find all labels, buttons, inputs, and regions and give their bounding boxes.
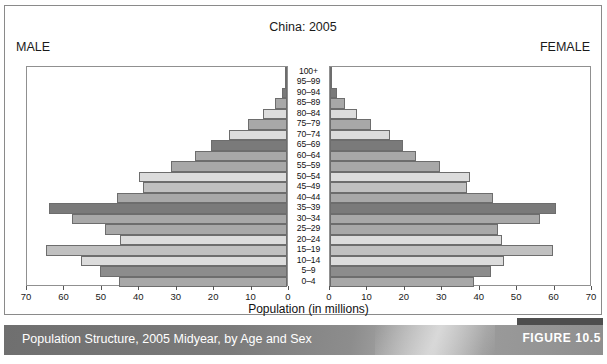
x-tick-female xyxy=(366,286,367,290)
pyramid-row xyxy=(27,235,287,245)
pyramid-row xyxy=(330,235,590,245)
pyramid-row xyxy=(330,266,590,276)
age-label-50–54: 50–54 xyxy=(288,171,329,181)
male-bar-rows xyxy=(27,67,287,285)
bar-female-80–84 xyxy=(330,109,357,119)
pyramid-row xyxy=(330,224,590,234)
bar-male-30–34 xyxy=(72,214,287,224)
bar-female-75–79 xyxy=(330,119,371,129)
x-tick-female xyxy=(479,286,480,290)
x-axis-title: Population (in millions) xyxy=(26,302,591,316)
x-tick-female xyxy=(591,286,592,290)
bar-female-85–89 xyxy=(330,98,345,108)
x-tick-label-female-30: 30 xyxy=(436,291,447,302)
x-tick-label-female-70: 70 xyxy=(586,291,597,302)
x-tick-male xyxy=(213,286,214,290)
bar-female-60–64 xyxy=(330,151,416,161)
pyramid-row xyxy=(330,256,590,266)
bar-male-65–69 xyxy=(211,140,287,150)
age-label-40–44: 40–44 xyxy=(288,192,329,202)
bar-female-45–49 xyxy=(330,182,467,192)
pyramid-row xyxy=(27,224,287,234)
bar-male-50–54 xyxy=(139,172,287,182)
bar-male-100+ xyxy=(285,67,287,77)
bar-male-5–9 xyxy=(100,266,287,276)
pyramid-row xyxy=(330,172,590,182)
pyramid-row xyxy=(27,245,287,255)
bar-male-55–59 xyxy=(171,161,287,171)
pyramid-row xyxy=(330,182,590,192)
pyramid-row xyxy=(27,203,287,213)
bar-male-85–89 xyxy=(275,98,287,108)
pyramid-row xyxy=(27,161,287,171)
chart-title: China: 2005 xyxy=(5,20,601,34)
age-label-60–64: 60–64 xyxy=(288,150,329,160)
bar-female-30–34 xyxy=(330,214,540,224)
x-tick-label-male-10: 10 xyxy=(245,291,256,302)
age-label-0–4: 0–4 xyxy=(288,276,329,286)
x-tick-female xyxy=(329,286,330,290)
pyramid-row xyxy=(330,193,590,203)
x-tick-label-male-60: 60 xyxy=(58,291,69,302)
x-tick-male xyxy=(251,286,252,290)
pyramid-row xyxy=(27,119,287,129)
x-tick-male xyxy=(138,286,139,290)
bar-female-55–59 xyxy=(330,161,440,171)
pyramid-row xyxy=(330,98,590,108)
pyramid-row xyxy=(330,77,590,87)
chart-frame: China: 2005 MALE FEMALE 100+95–9990–9485… xyxy=(4,5,602,315)
male-side-label: MALE xyxy=(16,40,50,54)
pyramid-row xyxy=(27,140,287,150)
x-tick-label-female-10: 10 xyxy=(361,291,372,302)
age-label-100+: 100+ xyxy=(288,66,329,76)
age-label-45–49: 45–49 xyxy=(288,181,329,191)
bar-male-75–79 xyxy=(248,119,287,129)
pyramid-row xyxy=(27,172,287,182)
bar-male-60–64 xyxy=(195,151,287,161)
pyramid-row xyxy=(330,203,590,213)
age-label-90–94: 90–94 xyxy=(288,87,329,97)
pyramid-row xyxy=(27,193,287,203)
pyramid-row xyxy=(330,119,590,129)
age-label-95–99: 95–99 xyxy=(288,76,329,86)
bar-female-20–24 xyxy=(330,235,502,245)
figure-population-pyramid: China: 2005 MALE FEMALE 100+95–9990–9485… xyxy=(0,0,607,364)
pyramid-row xyxy=(330,88,590,98)
pyramid-row xyxy=(27,67,287,77)
age-label-25–29: 25–29 xyxy=(288,223,329,233)
pyramid-row xyxy=(27,109,287,119)
pyramid-row xyxy=(27,130,287,140)
caption-text: Population Structure, 2005 Midyear, by A… xyxy=(22,332,312,346)
pyramid-row xyxy=(27,256,287,266)
bar-female-90–94 xyxy=(330,88,337,98)
age-label-5–9: 5–9 xyxy=(288,265,329,275)
bar-male-90–94 xyxy=(282,88,287,98)
x-tick-male xyxy=(288,286,289,290)
caption-band: Population Structure, 2005 Midyear, by A… xyxy=(4,325,603,355)
age-label-30–34: 30–34 xyxy=(288,213,329,223)
x-tick-female xyxy=(404,286,405,290)
x-tick-male xyxy=(26,286,27,290)
age-label-65–69: 65–69 xyxy=(288,139,329,149)
bar-male-25–29 xyxy=(105,224,287,234)
pyramid-row xyxy=(330,109,590,119)
x-axis: Population (in millions) 706050403020100… xyxy=(26,286,591,312)
pyramid-row xyxy=(27,98,287,108)
age-label-35–39: 35–39 xyxy=(288,202,329,212)
female-panel xyxy=(329,66,591,286)
pyramid-row xyxy=(27,266,287,276)
x-tick-label-male-0: 0 xyxy=(285,291,290,302)
pyramid-row xyxy=(27,77,287,87)
x-tick-label-male-50: 50 xyxy=(96,291,107,302)
pyramid-row xyxy=(27,214,287,224)
x-tick-male xyxy=(101,286,102,290)
x-tick-label-female-40: 40 xyxy=(473,291,484,302)
pyramid-row xyxy=(330,140,590,150)
x-tick-label-female-60: 60 xyxy=(548,291,559,302)
bar-female-95–99 xyxy=(330,77,332,87)
x-tick-female xyxy=(516,286,517,290)
x-tick-label-male-30: 30 xyxy=(170,291,181,302)
pyramid-row xyxy=(27,88,287,98)
bar-female-50–54 xyxy=(330,172,470,182)
age-group-axis: 100+95–9990–9485–8980–8475–7970–7465–696… xyxy=(288,66,329,286)
